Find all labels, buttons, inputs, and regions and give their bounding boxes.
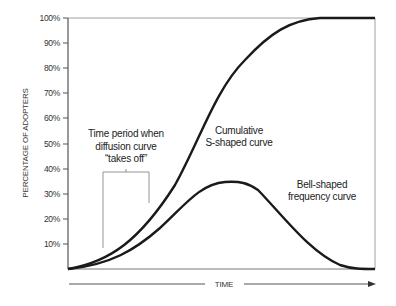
- y-tick-labels: 10% 20% 30% 40% 50% 60% 70% 80% 90% 100%: [39, 13, 60, 249]
- takeoff-bracket: [103, 169, 149, 248]
- takeoff-line-2: diffusion curve: [95, 141, 157, 152]
- bell-annotation: Bell-shaped frequency curve: [288, 179, 357, 202]
- cumulative-line-2: S-shaped curve: [205, 137, 273, 148]
- time-arrow: TIME: [69, 280, 376, 289]
- tick-100: 100%: [39, 13, 60, 23]
- arrowhead-icon: [368, 281, 376, 287]
- tick-10: 10%: [44, 239, 61, 249]
- diffusion-chart: 10% 20% 30% 40% 50% 60% 70% 80% 90% 100%…: [0, 0, 396, 306]
- tick-90: 90%: [44, 38, 61, 48]
- bell-line-2: frequency curve: [288, 191, 357, 202]
- cumulative-annotation: Cumulative S-shaped curve: [205, 125, 273, 148]
- tick-50: 50%: [44, 139, 61, 149]
- tick-80: 80%: [44, 63, 61, 73]
- tick-30: 30%: [44, 189, 61, 199]
- tick-20: 20%: [44, 214, 61, 224]
- y-axis-title: PERCENTAGE OF ADOPTERS: [21, 88, 30, 197]
- tick-60: 60%: [44, 113, 61, 123]
- tick-40: 40%: [44, 164, 61, 174]
- y-ticks: [63, 18, 68, 244]
- takeoff-annotation: Time period when diffusion curve “takes …: [88, 128, 164, 164]
- x-axis-title: TIME: [215, 280, 233, 289]
- takeoff-line-3: “takes off”: [105, 153, 147, 164]
- takeoff-line-1: Time period when: [88, 128, 164, 139]
- bell-line-1: Bell-shaped: [297, 179, 348, 190]
- cumulative-line-1: Cumulative: [215, 125, 264, 136]
- tick-70: 70%: [44, 88, 61, 98]
